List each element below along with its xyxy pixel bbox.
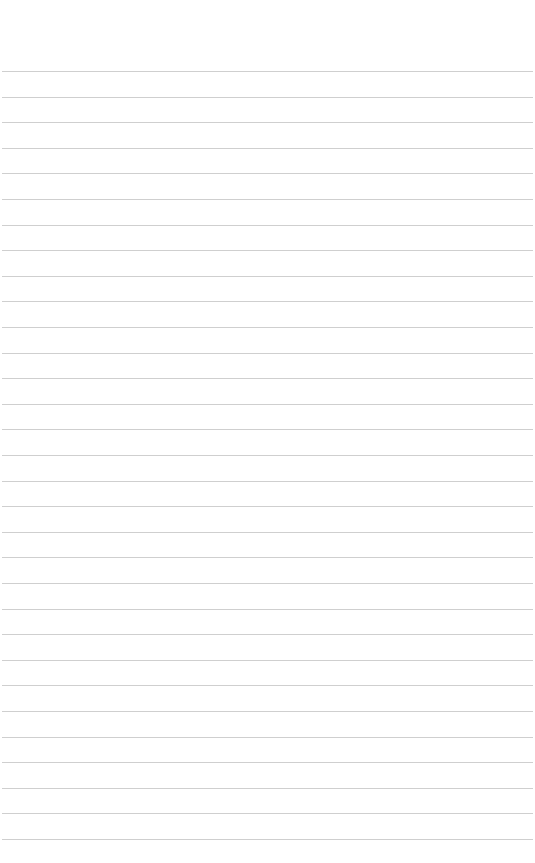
ruled-line — [2, 506, 533, 507]
ruled-line — [2, 711, 533, 712]
ruled-line — [2, 455, 533, 456]
ruled-line — [2, 404, 533, 405]
ruled-line — [2, 839, 533, 840]
ruled-line — [2, 813, 533, 814]
ruled-line — [2, 148, 533, 149]
lined-paper-sheet — [0, 0, 535, 863]
ruled-line — [2, 634, 533, 635]
ruled-line — [2, 97, 533, 98]
ruled-line — [2, 583, 533, 584]
ruled-line — [2, 250, 533, 251]
ruled-line — [2, 71, 533, 72]
ruled-line — [2, 199, 533, 200]
ruled-line — [2, 609, 533, 610]
ruled-line — [2, 532, 533, 533]
ruled-line — [2, 557, 533, 558]
ruled-line — [2, 225, 533, 226]
ruled-line — [2, 301, 533, 302]
ruled-line — [2, 327, 533, 328]
ruled-line — [2, 660, 533, 661]
ruled-line — [2, 276, 533, 277]
ruled-line — [2, 762, 533, 763]
ruled-line — [2, 481, 533, 482]
ruled-line — [2, 429, 533, 430]
ruled-line — [2, 788, 533, 789]
ruled-line — [2, 173, 533, 174]
ruled-line — [2, 122, 533, 123]
ruled-line — [2, 737, 533, 738]
ruled-line — [2, 353, 533, 354]
ruled-line — [2, 685, 533, 686]
ruled-line — [2, 378, 533, 379]
